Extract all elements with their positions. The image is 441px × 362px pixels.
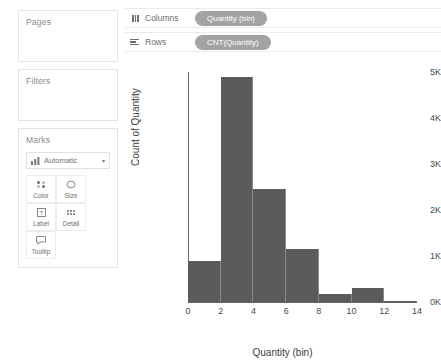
mark-type-dropdown[interactable]: Automatic ▾: [26, 152, 110, 169]
pages-card-title: Pages: [26, 17, 110, 28]
color-icon: [37, 180, 45, 190]
marks-detail-button[interactable]: Detail: [56, 203, 86, 231]
histogram-bar[interactable]: [286, 249, 319, 302]
marks-size-label: Size: [65, 192, 78, 199]
marks-label-button[interactable]: T Label: [26, 203, 56, 231]
x-axis-tick: 12: [379, 306, 389, 316]
filters-card-title: Filters: [26, 76, 110, 87]
histogram-chart[interactable]: Count of Quantity Quantity (bin) 0K1K2K3…: [124, 58, 441, 362]
marks-detail-label: Detail: [63, 220, 80, 227]
worksheet-area: Columns Quantity (bin) Rows CNT(Quantity…: [124, 0, 441, 362]
svg-text:T: T: [39, 210, 43, 216]
marks-color-label: Color: [33, 192, 49, 199]
histogram-bar[interactable]: [253, 189, 286, 302]
rows-shelf-label: Rows: [145, 37, 195, 47]
rows-icon: [130, 38, 141, 46]
size-icon: [66, 180, 76, 190]
columns-shelf[interactable]: Columns Quantity (bin): [124, 8, 441, 28]
plot-area: 0K1K2K3K4K5K02468101214: [124, 58, 441, 362]
pill-quantity-bin[interactable]: Quantity (bin): [195, 11, 267, 26]
x-axis-tick: 14: [412, 306, 422, 316]
marks-card-title: Marks: [26, 135, 110, 146]
pages-card[interactable]: Pages: [18, 10, 118, 62]
pill-cnt-quantity[interactable]: CNT(Quantity): [195, 35, 271, 50]
columns-icon: [130, 14, 141, 22]
columns-shelf-label: Columns: [145, 13, 195, 23]
histogram-bar[interactable]: [221, 77, 254, 302]
marks-color-button[interactable]: Color: [26, 175, 56, 203]
sidebar: Pages Filters Marks Automatic ▾: [0, 0, 124, 362]
tableau-worksheet: Pages Filters Marks Automatic ▾: [0, 0, 441, 362]
shelves: Columns Quantity (bin) Rows CNT(Quantity…: [124, 0, 441, 52]
marks-card: Marks Automatic ▾ Color: [18, 128, 118, 268]
marks-tooltip-button[interactable]: Tooltip: [26, 231, 56, 259]
y-axis-tick: 5K: [385, 67, 441, 77]
marks-button-grid: Color Size T: [26, 175, 110, 259]
rows-shelf[interactable]: Rows CNT(Quantity): [124, 32, 441, 52]
marks-label-label: Label: [33, 220, 49, 227]
x-axis-line: [188, 302, 417, 303]
x-axis-tick: 6: [284, 306, 289, 316]
y-axis-tick: 1K: [385, 251, 441, 261]
filters-card[interactable]: Filters: [18, 69, 118, 121]
chevron-down-icon[interactable]: ▾: [102, 158, 105, 164]
bar-chart-icon: [31, 156, 40, 166]
x-axis-tick: 0: [185, 306, 190, 316]
tooltip-icon: [36, 236, 46, 246]
x-axis-tick: 4: [251, 306, 256, 316]
detail-icon: [67, 208, 75, 218]
x-axis-tick: 8: [316, 306, 321, 316]
x-axis-tick: 10: [347, 306, 357, 316]
histogram-bar[interactable]: [319, 294, 352, 302]
histogram-bar[interactable]: [384, 301, 417, 302]
histogram-bar[interactable]: [188, 261, 221, 302]
y-axis-tick: 2K: [385, 205, 441, 215]
x-axis-tick: 2: [218, 306, 223, 316]
y-axis-tick: 4K: [385, 113, 441, 123]
mark-type-label: Automatic: [44, 156, 98, 165]
histogram-bar[interactable]: [352, 288, 385, 302]
y-axis-tick: 3K: [385, 159, 441, 169]
marks-tooltip-label: Tooltip: [32, 248, 51, 255]
marks-size-button[interactable]: Size: [56, 175, 86, 203]
label-icon: T: [37, 208, 46, 218]
